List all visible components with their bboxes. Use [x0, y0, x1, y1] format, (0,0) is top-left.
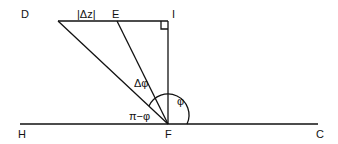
- label-E: E: [112, 9, 119, 20]
- label-C: C: [316, 129, 324, 140]
- geometry-diagram: D |Δz| E I Δφ φ π−φ H F C: [0, 0, 338, 144]
- label-dphi: Δφ: [134, 78, 148, 89]
- label-D: D: [21, 9, 29, 20]
- right-angle-marker: [161, 21, 168, 29]
- diagram-lines: [0, 0, 338, 144]
- label-I: I: [172, 9, 175, 20]
- label-dz: |Δz|: [77, 9, 96, 20]
- label-phi: φ: [177, 96, 184, 107]
- label-H: H: [18, 129, 26, 140]
- label-pi-minus-phi: π−φ: [129, 111, 150, 122]
- line-DF: [58, 21, 168, 124]
- label-F: F: [165, 129, 172, 140]
- line-EF: [117, 21, 168, 124]
